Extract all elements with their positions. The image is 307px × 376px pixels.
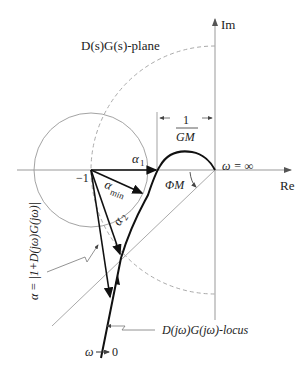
locus-pointer — [107, 326, 155, 330]
nyquist-diagram: Im Re D(s)G(s)-plane −1 ω = ∞ ω 0 1 GM Φ… — [0, 0, 307, 376]
phase-margin-label: ΦM — [165, 178, 185, 192]
alpha-min-subscript: min — [109, 187, 126, 202]
minus-one-label: −1 — [76, 171, 89, 185]
omega-zero-value: 0 — [112, 345, 118, 359]
alpha1-label: α — [132, 151, 140, 166]
real-axis-label: Re — [280, 178, 295, 193]
gm-numerator: 1 — [183, 113, 189, 127]
alpha1-subscript: 1 — [140, 158, 145, 168]
phase-margin-line — [52, 170, 215, 326]
phase-margin-arc — [190, 172, 196, 187]
locus-label: D(jω)G(jω)-locus — [161, 323, 249, 337]
gm-denominator: GM — [176, 130, 196, 144]
omega-inf-label: ω = ∞ — [222, 159, 254, 173]
omega-zero-label: ω — [85, 345, 93, 359]
plane-label: D(s)G(s)-plane — [81, 38, 160, 53]
imag-axis-label: Im — [221, 17, 235, 32]
alpha-pointer — [47, 245, 98, 272]
alpha-definition: α = |1+D(jω)G(jω)| — [27, 202, 41, 300]
